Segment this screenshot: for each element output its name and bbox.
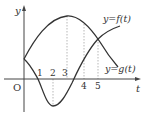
tick-label-4: 4 <box>81 81 87 91</box>
tick-label-1: 1 <box>37 68 43 78</box>
axes <box>4 9 137 112</box>
t-axis-label: t <box>136 83 141 94</box>
y-axis-arrow-icon <box>22 5 26 11</box>
tick-label-5: 5 <box>95 81 101 91</box>
curve-f-label: y=f(t) <box>102 13 131 24</box>
y-axis-label: y <box>14 5 21 16</box>
tick-label-3: 3 <box>62 68 68 78</box>
curve-g-label: y=g(t) <box>104 63 136 74</box>
origin-label: O <box>13 82 21 93</box>
graph-figure: y t O 1 2 3 4 5 y=f(t) y=g(t) <box>0 0 150 115</box>
t-axis-arrow-icon <box>135 77 141 81</box>
tick-label-2: 2 <box>50 68 56 78</box>
graph-canvas: y t O 1 2 3 4 5 y=f(t) y=g(t) <box>0 0 150 115</box>
